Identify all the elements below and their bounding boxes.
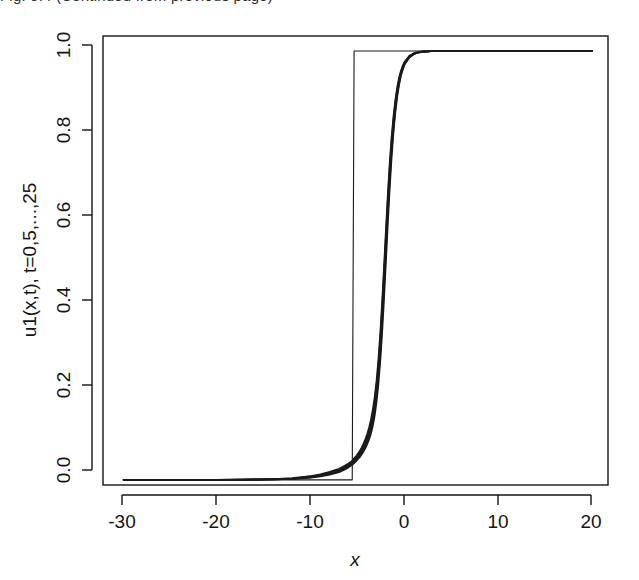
y-axis-title: u1(x,t), t=0,5,...,25 xyxy=(19,183,40,338)
x-tick-label: 20 xyxy=(580,511,601,532)
figure-root: Fig. 9.4 (Continued from previous page) … xyxy=(0,0,639,580)
curve-t20 xyxy=(124,51,592,480)
y-tick-label: 0.2 xyxy=(53,372,74,398)
x-axis-ticks xyxy=(122,495,591,505)
y-tick-label: 0.6 xyxy=(53,202,74,228)
curve-t5 xyxy=(124,51,592,480)
curve-t25 xyxy=(124,51,592,480)
y-tick-label: 0.4 xyxy=(53,286,74,313)
x-tick-label: 10 xyxy=(487,511,508,532)
x-tick-label: 0 xyxy=(399,511,410,532)
curve-t0 xyxy=(124,51,592,480)
y-tick-label: 0.0 xyxy=(53,457,74,483)
plot-canvas: -30 -20 -10 0 10 20 0.0 0.2 0.4 0.6 0.8 … xyxy=(0,0,639,580)
x-tick-label: -20 xyxy=(202,511,229,532)
data-curves-group xyxy=(124,51,592,480)
curve-t10 xyxy=(124,51,592,480)
curve-t15 xyxy=(124,51,592,480)
y-tick-label: 1.0 xyxy=(53,32,74,58)
x-tick-label: -30 xyxy=(108,511,135,532)
y-axis-ticks xyxy=(82,45,92,470)
x-tick-label: -10 xyxy=(296,511,323,532)
plot-frame-box xyxy=(103,36,608,485)
x-axis-title: x xyxy=(349,549,361,570)
y-tick-label: 0.8 xyxy=(53,117,74,143)
